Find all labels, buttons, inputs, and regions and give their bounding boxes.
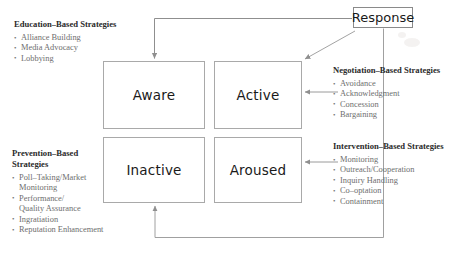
state-box-active[interactable]: Active	[214, 61, 302, 129]
strategy-block-intervention: Intervention–Based Strategies Monitoring…	[333, 141, 461, 207]
list-item: Media Advocacy	[14, 43, 139, 53]
strategy-title-intervention: Intervention–Based Strategies	[333, 141, 461, 152]
strategy-title-education: Education–Based Strategies	[14, 19, 139, 30]
strategy-matrix-diagram: Response Aware Active Inactive Aroused E…	[0, 0, 461, 257]
strategy-list-education: Alliance Building Media Advocacy Lobbyin…	[14, 33, 139, 64]
list-item: Co–optation	[333, 186, 461, 196]
strategy-title-negotiation: Negotiation–Based Strategies	[333, 65, 458, 76]
state-box-aware-label: Aware	[133, 87, 176, 103]
list-item: Concession	[333, 100, 458, 110]
list-item: Alliance Building	[14, 33, 139, 43]
strategy-block-education: Education–Based Strategies Alliance Buil…	[14, 19, 139, 64]
list-item: Performance/ Quality Assurance	[12, 194, 122, 215]
list-item: Outreach/Cooperation	[333, 165, 461, 175]
scan-artifact-icon	[404, 38, 420, 47]
list-item: Avoidance	[333, 79, 458, 89]
strategy-block-negotiation: Negotiation–Based Strategies Avoidance A…	[333, 65, 458, 121]
strategy-list-prevention: Poll–Taking/Market Monitoring Performanc…	[12, 173, 122, 235]
strategy-list-negotiation: Avoidance Acknowledgment Concession Barg…	[333, 79, 458, 121]
state-box-aroused-label: Aroused	[230, 162, 287, 178]
strategy-block-prevention: Prevention–Based Strategies Poll–Taking/…	[12, 148, 122, 235]
list-item: Reputation Enhancement	[12, 225, 122, 235]
list-item: Acknowledgment	[333, 89, 458, 99]
connector-response-to-active	[305, 31, 355, 59]
response-node-label: Response	[352, 10, 414, 25]
strategy-title-prevention: Prevention–Based Strategies	[12, 148, 122, 170]
list-item: Inquiry Handling	[333, 176, 461, 186]
state-box-aroused[interactable]: Aroused	[214, 137, 302, 203]
state-box-inactive-label: Inactive	[126, 162, 181, 178]
list-item: Containment	[333, 197, 461, 207]
state-box-aware[interactable]: Aware	[103, 61, 205, 129]
list-item: Bargaining	[333, 110, 458, 120]
list-item: Ingratiation	[12, 215, 122, 225]
state-box-active-label: Active	[237, 87, 280, 103]
strategy-list-intervention: Monitoring Outreach/Cooperation Inquiry …	[333, 155, 461, 207]
list-item: Poll–Taking/Market Monitoring	[12, 173, 122, 194]
list-item: Monitoring	[333, 155, 461, 165]
list-item: Lobbying	[14, 54, 139, 64]
scan-artifact-icon	[398, 32, 406, 38]
response-node[interactable]: Response	[353, 7, 413, 28]
connector-response-to-aware	[155, 19, 353, 59]
